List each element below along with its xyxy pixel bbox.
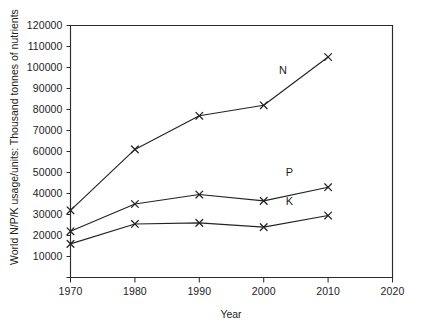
y-axis-title: World N/P/K usage/units: Thousand tonnes… [8,9,20,265]
y-tick-label: 50000 [33,166,63,178]
series-inline-labels: NPK [279,64,294,207]
y-tick-label: 80000 [33,103,63,115]
x-tick-label: 2010 [316,285,340,297]
x-axis-title: Year [220,308,242,320]
x-tick-label: 1970 [59,285,83,297]
y-tick-label: 60000 [33,145,63,157]
y-tick-label: 40000 [33,187,63,199]
series-label-K: K [286,195,294,207]
y-axis-ticks: 1000020000300004000050000600007000080000… [27,19,71,277]
data-series-group [67,54,331,248]
x-axis-ticks: 197019801990200020102020 [59,278,405,297]
y-tick-label: 110000 [28,40,63,52]
y-tick-label: 20000 [33,229,63,241]
y-tick-label: 70000 [33,124,63,136]
series-label-N: N [279,64,287,76]
chart-page: 1000020000300004000050000600007000080000… [0,0,430,331]
x-tick-label: 1980 [123,285,147,297]
y-tick-label: 30000 [33,208,63,220]
plot-frame [71,26,393,278]
data-point-marker [132,146,139,153]
x-tick-label: 2000 [252,285,276,297]
series-label-P: P [286,166,293,178]
x-tick-label: 2020 [381,285,405,297]
x-tick-label: 1990 [187,285,211,297]
line-chart: 1000020000300004000050000600007000080000… [0,0,430,331]
y-tick-label: 90000 [33,82,63,94]
y-tick-label: 100000 [27,61,63,73]
series-line-N [71,57,329,210]
y-tick-label: 120000 [27,19,63,31]
y-tick-label: 10000 [33,250,63,262]
series-line-K [71,216,329,244]
data-point-marker [325,54,332,61]
